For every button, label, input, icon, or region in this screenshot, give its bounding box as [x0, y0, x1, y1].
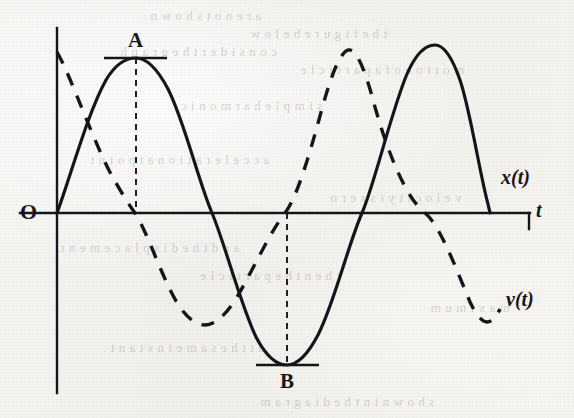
velocity-curve-dashed: [57, 50, 500, 325]
displacement-curve-solid: [57, 45, 490, 365]
point-a-label: A: [128, 28, 143, 53]
displacement-curve-label: x(t): [501, 166, 530, 189]
oscillation-graph: [0, 0, 574, 418]
velocity-curve-label: v(t): [506, 288, 534, 311]
axes-group: [20, 28, 530, 393]
figure-canvas: a r e n o t s h o w nt h e f i g u r e b…: [0, 0, 574, 418]
point-b-label: B: [280, 369, 294, 394]
origin-label: O: [20, 199, 37, 225]
t-axis-label: t: [536, 199, 542, 222]
